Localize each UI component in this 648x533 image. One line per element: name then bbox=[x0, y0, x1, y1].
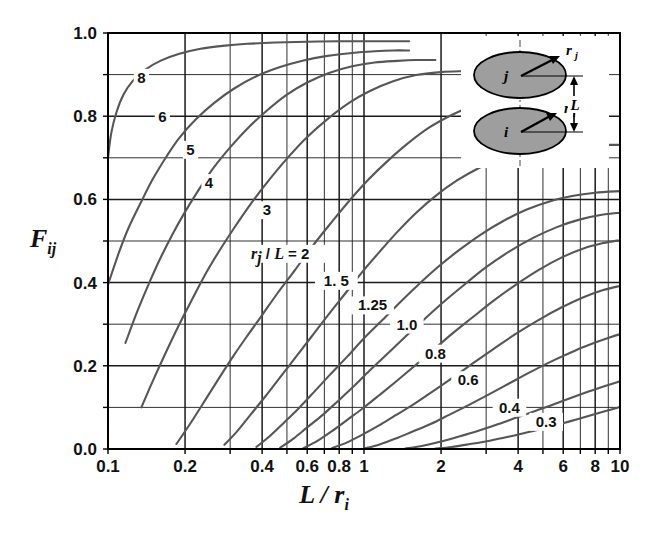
curve-label-0.3: 0.3 bbox=[536, 413, 557, 430]
x-tick-label: 1 bbox=[359, 457, 368, 476]
curve-label-8: 8 bbox=[137, 69, 145, 86]
curve-label-1.5: 1. 5 bbox=[324, 272, 349, 289]
x-tick-label: 0.8 bbox=[327, 457, 351, 476]
y-tick-label: 0.8 bbox=[73, 107, 97, 126]
inset-label-j: j bbox=[502, 68, 509, 84]
y-tick-label: 0.6 bbox=[73, 190, 97, 209]
curve-label-5: 5 bbox=[186, 141, 194, 158]
x-tick-label: 2 bbox=[436, 457, 445, 476]
inset-label-L: L bbox=[569, 97, 579, 113]
y-tick-label: 1.0 bbox=[73, 24, 97, 43]
curve-label-1.0: 1.0 bbox=[396, 316, 417, 333]
x-tick-label: 0.2 bbox=[173, 457, 197, 476]
curve-label-6: 6 bbox=[158, 108, 166, 125]
inset-label-rj: r bbox=[566, 42, 572, 58]
x-tick-label: 0.1 bbox=[96, 457, 120, 476]
y-tick-label: 0.2 bbox=[73, 357, 97, 376]
x-tick-label: 0.4 bbox=[250, 457, 274, 476]
x-tick-label: 0.6 bbox=[295, 457, 319, 476]
curve-label-4: 4 bbox=[205, 174, 214, 191]
curve-label-0.8: 0.8 bbox=[425, 345, 446, 362]
curve-label-3: 3 bbox=[263, 201, 271, 218]
geometry-inset: j i r j r i L bbox=[461, 36, 609, 168]
x-axis-title: L / ri bbox=[298, 480, 349, 513]
x-tick-label: 6 bbox=[558, 457, 567, 476]
y-tick-label: 0.4 bbox=[73, 274, 97, 293]
x-tick-label: 10 bbox=[611, 457, 630, 476]
y-tick-label: 0.0 bbox=[73, 440, 97, 459]
x-tick-label: 4 bbox=[513, 457, 523, 476]
x-tick-label: 8 bbox=[590, 457, 599, 476]
curve-label-0.4: 0.4 bbox=[499, 399, 521, 416]
curve-label-1.25: 1.25 bbox=[358, 296, 387, 313]
curve-label-0.6: 0.6 bbox=[458, 371, 479, 388]
view-factor-chart: 0.10.20.40.60.81246810 0.00.20.40.60.81.… bbox=[0, 0, 648, 533]
chart-figure: 0.10.20.40.60.81246810 0.00.20.40.60.81.… bbox=[0, 0, 648, 533]
